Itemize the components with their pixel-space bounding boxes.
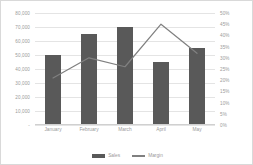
plot-area [35, 13, 215, 125]
right-axis-tick: 45% [220, 22, 230, 27]
right-axis-tick: 40% [220, 33, 230, 38]
left-axis-tick: 30,000 [15, 81, 30, 86]
category-label: February [79, 127, 98, 132]
line-series-margin [35, 13, 215, 125]
legend-label-sales: Sales [108, 153, 120, 158]
category-label: March [118, 127, 131, 132]
right-axis-tick: 20% [220, 78, 230, 83]
legend-swatch-margin-icon [132, 155, 145, 157]
left-value-axis: 80,00070,00060,00050,00040,00030,00020,0… [1, 13, 33, 125]
category-label: January [44, 127, 61, 132]
gridline [35, 125, 215, 126]
legend-label-margin: Margin [148, 153, 163, 158]
right-axis-tick: 10% [220, 100, 230, 105]
category-axis-labels: JanuaryFebruaryMarchAprilMay [35, 127, 215, 139]
left-axis-tick: 80,000 [15, 11, 30, 16]
left-axis-tick: 50,000 [15, 53, 30, 58]
right-percent-axis: 50%45%40%35%30%25%20%15%10%5%0% [217, 13, 251, 125]
left-axis-tick: 20,000 [15, 95, 30, 100]
right-axis-tick: 5% [220, 111, 227, 116]
right-axis-tick: 50% [220, 11, 230, 16]
left-axis-tick: 60,000 [15, 39, 30, 44]
category-axis-line [35, 124, 215, 125]
margin-line-path[interactable] [53, 24, 197, 78]
legend-swatch-sales-icon [92, 154, 105, 158]
legend-entry-sales[interactable]: Sales [92, 153, 120, 158]
left-axis-tick: - [28, 123, 30, 128]
category-label: May [192, 127, 201, 132]
chart-container: 80,00070,00060,00050,00040,00030,00020,0… [0, 0, 253, 165]
category-label: April [156, 127, 166, 132]
right-axis-tick: 35% [220, 44, 230, 49]
right-axis-tick: 0% [220, 123, 227, 128]
right-axis-tick: 30% [220, 55, 230, 60]
chart-legend: Sales Margin [1, 153, 253, 158]
left-axis-tick: 70,000 [15, 25, 30, 30]
right-axis-tick: 25% [220, 67, 230, 72]
legend-entry-margin[interactable]: Margin [132, 153, 163, 158]
right-axis-tick: 15% [220, 89, 230, 94]
left-axis-tick: 40,000 [15, 67, 30, 72]
left-axis-tick: 10,000 [15, 109, 30, 114]
